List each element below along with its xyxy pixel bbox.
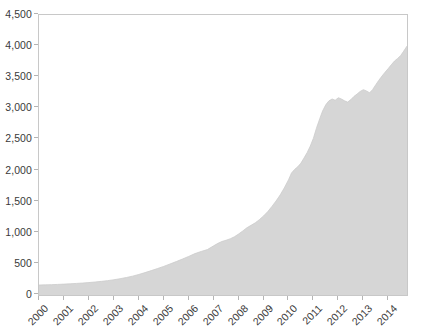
y-tick: 0	[0, 288, 38, 300]
y-tick-label: 3,500	[5, 70, 32, 82]
x-axis: 2000200120022003200420052006200720082009…	[38, 296, 410, 335]
x-tick-mark	[188, 296, 189, 300]
y-tick: 3,000	[0, 101, 38, 113]
x-tick-mark	[312, 296, 313, 300]
x-tick-label: 2011	[295, 302, 325, 332]
area-fill-path	[39, 46, 407, 295]
x-tick-mark	[113, 296, 114, 300]
x-tick-mark	[287, 296, 288, 300]
x-tick-mark	[88, 296, 89, 300]
series-area	[39, 15, 407, 295]
y-tick-label: 4,500	[5, 8, 32, 20]
y-tick: 2,000	[0, 164, 38, 176]
area-chart: 4,5004,0003,5003,0002,5002,0001,5001,000…	[0, 0, 422, 335]
y-tick: 1,500	[0, 195, 38, 207]
x-tick-label: 2008	[220, 302, 250, 332]
y-tick-label: 3,000	[5, 101, 32, 113]
x-tick-mark	[387, 296, 388, 300]
y-tick: 4,000	[0, 39, 38, 51]
y-tick-label: 2,000	[5, 164, 32, 176]
x-tick-mark	[337, 296, 338, 300]
x-tick-label: 2001	[46, 302, 76, 332]
x-tick-mark	[238, 296, 239, 300]
y-tick-label: 2,500	[5, 132, 32, 144]
y-tick-label: 0	[26, 288, 32, 300]
y-tick-label: 1,000	[5, 226, 32, 238]
y-tick: 1,000	[0, 226, 38, 238]
x-tick-mark	[38, 296, 39, 300]
x-tick-mark	[163, 296, 164, 300]
x-tick-label: 2007	[195, 302, 225, 332]
y-tick: 4,500	[0, 8, 38, 20]
x-tick-label: 2010	[270, 302, 300, 332]
x-tick-label: 2005	[146, 302, 176, 332]
y-tick: 500	[0, 257, 38, 269]
x-tick-label: 2014	[370, 302, 400, 332]
x-tick-mark	[263, 296, 264, 300]
y-tick-label: 500	[14, 257, 32, 269]
y-tick-label: 4,000	[5, 39, 32, 51]
x-tick-label: 2004	[121, 302, 151, 332]
y-tick-label: 1,500	[5, 195, 32, 207]
y-tick: 3,500	[0, 70, 38, 82]
x-tick-mark	[63, 296, 64, 300]
plot-area	[38, 14, 408, 296]
y-tick: 2,500	[0, 132, 38, 144]
x-tick-mark	[213, 296, 214, 300]
x-tick-mark	[138, 296, 139, 300]
x-tick-label: 2012	[320, 302, 350, 332]
y-axis: 4,5004,0003,5003,0002,5002,0001,5001,000…	[0, 0, 38, 310]
x-tick-label: 2009	[245, 302, 275, 332]
x-tick-label: 2003	[96, 302, 126, 332]
x-tick-mark	[362, 296, 363, 300]
x-tick-label: 2006	[170, 302, 200, 332]
x-tick-label: 2013	[345, 302, 375, 332]
x-tick-label: 2002	[71, 302, 101, 332]
